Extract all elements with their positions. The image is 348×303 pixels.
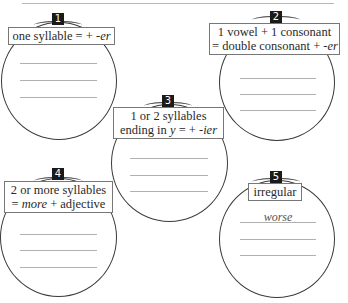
- rule-text-line1: 1 vowel + 1 consonant: [212, 25, 337, 39]
- rule-label-3: 1 or 2 syllables ending in y = + -ier: [113, 107, 224, 139]
- answer-line-2-2[interactable]: [240, 94, 316, 95]
- badge-4: 4: [52, 168, 64, 180]
- answer-line-3-3[interactable]: [130, 191, 208, 192]
- rule-text-line2: ending in: [120, 123, 170, 137]
- rule-suffix: -er: [96, 29, 111, 43]
- rule-text-mid: = +: [176, 123, 199, 137]
- answer-line-2-3[interactable]: [240, 110, 316, 111]
- rule-label-4: 2 or more syllables = more + adjective: [4, 181, 113, 213]
- answer-line-1-3[interactable]: [20, 97, 97, 98]
- badge-5: 5: [270, 171, 282, 183]
- badge-2: 2: [270, 11, 282, 23]
- answer-line-2-1[interactable]: [240, 78, 316, 79]
- rule-text-line1: 2 or more syllables: [7, 183, 110, 197]
- rule-text: irregular: [253, 185, 296, 199]
- rule-suffix: -er: [323, 39, 338, 53]
- answer-line-3-1[interactable]: [130, 158, 208, 159]
- answer-line-4-3[interactable]: [20, 267, 97, 268]
- comparatives-worksheet: 1 one syllable = + -er 2 1 vowel + 1 con…: [0, 0, 348, 303]
- answer-line-5-2[interactable]: [240, 239, 316, 240]
- rule-text-post: + adjective: [47, 197, 105, 211]
- rule-label-5: irregular: [248, 183, 302, 201]
- rule-label-1: one syllable = + -er: [8, 27, 115, 45]
- answer-line-5-3[interactable]: [240, 255, 316, 256]
- rule-text-line2: =: [12, 197, 22, 211]
- answer-line-4-1[interactable]: [20, 234, 97, 235]
- answer-line-3-2[interactable]: [130, 175, 208, 176]
- rule-text: one syllable = +: [12, 29, 96, 43]
- top-rule-line: [22, 3, 334, 4]
- badge-1: 1: [52, 13, 64, 25]
- answer-line-1-2[interactable]: [20, 80, 97, 81]
- rule-text-line1: 1 or 2 syllables: [116, 109, 221, 123]
- rule-text-line2: = double consonant +: [212, 39, 323, 53]
- badge-3: 3: [162, 95, 174, 107]
- answer-line-5-1[interactable]: [240, 222, 316, 223]
- answer-line-1-1[interactable]: [20, 63, 97, 64]
- rule-word-more: more: [22, 197, 47, 211]
- rule-suffix: -ier: [199, 123, 217, 137]
- rule-label-2: 1 vowel + 1 consonant = double consonant…: [209, 23, 340, 55]
- answer-line-4-2[interactable]: [20, 250, 97, 251]
